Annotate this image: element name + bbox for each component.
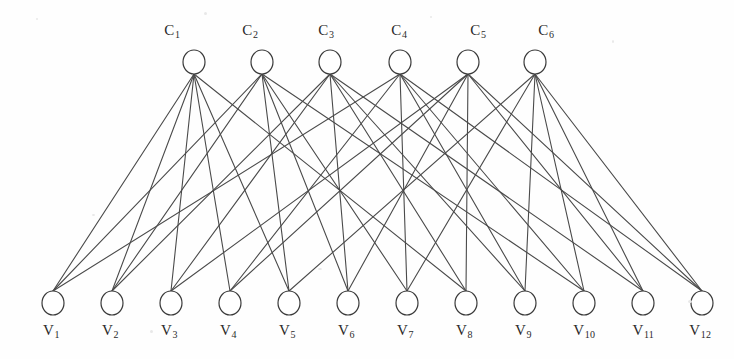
graph-edge [330, 74, 643, 291]
check-node-label-c5: C5 [470, 22, 485, 39]
variable-node-label-v9: V9 [515, 322, 531, 339]
variable-node-label-v7: V7 [397, 322, 413, 339]
variable-node-label-v1: V1 [43, 322, 59, 339]
variable-node-label-v3: V3 [161, 322, 177, 339]
graph-canvas [0, 0, 734, 359]
variable-node-v4[interactable] [219, 291, 241, 315]
variable-node-label-v10: V10 [573, 322, 594, 339]
variable-node-label-v6: V6 [338, 322, 354, 339]
graph-edge [348, 74, 468, 291]
variable-node-v12[interactable] [691, 291, 713, 315]
scan-speck [36, 18, 38, 20]
check-node-c6[interactable] [524, 50, 546, 74]
edge-layer [53, 74, 702, 291]
variable-node-label-v4: V4 [220, 322, 236, 339]
tanner-graph-figure: C1C2C3C4C5C6V1V2V3V4V5V6V7V8V9V10V11V12 [0, 0, 734, 359]
graph-edge [112, 74, 262, 291]
graph-edge [262, 74, 407, 291]
check-node-c3[interactable] [319, 50, 341, 74]
check-node-c2[interactable] [251, 50, 273, 74]
graph-edge [400, 74, 407, 291]
variable-node-label-v8: V8 [456, 322, 472, 339]
scan-speck [318, 268, 322, 270]
graph-edge [194, 74, 230, 291]
variable-node-label-v11: V11 [632, 322, 653, 339]
check-node-label-c3: C3 [318, 22, 333, 39]
check-node-label-c4: C4 [391, 22, 406, 39]
check-node-label-c6: C6 [538, 22, 553, 39]
variable-node-label-v2: V2 [102, 322, 118, 339]
check-node-c1[interactable] [183, 50, 205, 74]
variable-node-v8[interactable] [455, 291, 477, 315]
variable-node-label-v12: V12 [689, 322, 710, 339]
variable-node-v9[interactable] [514, 291, 536, 315]
variable-node-v5[interactable] [278, 291, 300, 315]
graph-edge [330, 74, 348, 291]
scan-speck [92, 214, 95, 216]
check-node-c5[interactable] [457, 50, 479, 74]
graph-edge [53, 74, 262, 291]
scan-speck [150, 330, 153, 333]
graph-edge [230, 74, 400, 291]
check-node-label-c2: C2 [242, 22, 257, 39]
variable-node-label-v5: V5 [279, 322, 295, 339]
graph-edge [466, 74, 468, 291]
graph-edge [194, 74, 466, 291]
variable-node-v3[interactable] [160, 291, 182, 315]
variable-node-v1[interactable] [42, 291, 64, 315]
variable-node-v11[interactable] [632, 291, 654, 315]
graph-edge [112, 74, 330, 291]
graph-edge [171, 74, 330, 291]
scan-speck [204, 12, 207, 15]
check-node-label-c1: C1 [164, 22, 179, 39]
scan-speck [612, 40, 614, 43]
graph-edge [53, 74, 400, 291]
graph-edge [289, 74, 535, 291]
scan-speck [430, 16, 432, 18]
graph-edge [400, 74, 525, 291]
graph-edge [53, 74, 194, 291]
graph-edge [468, 74, 643, 291]
graph-edge [171, 74, 194, 291]
node-layer [42, 50, 713, 315]
check-node-c4[interactable] [389, 50, 411, 74]
graph-edge [525, 74, 535, 291]
graph-edge [468, 74, 702, 291]
graph-edge [112, 74, 194, 291]
graph-edge [407, 74, 535, 291]
variable-node-v2[interactable] [101, 291, 123, 315]
scan-speck [688, 300, 692, 303]
variable-node-v6[interactable] [337, 291, 359, 315]
variable-node-v7[interactable] [396, 291, 418, 315]
variable-node-v10[interactable] [573, 291, 595, 315]
